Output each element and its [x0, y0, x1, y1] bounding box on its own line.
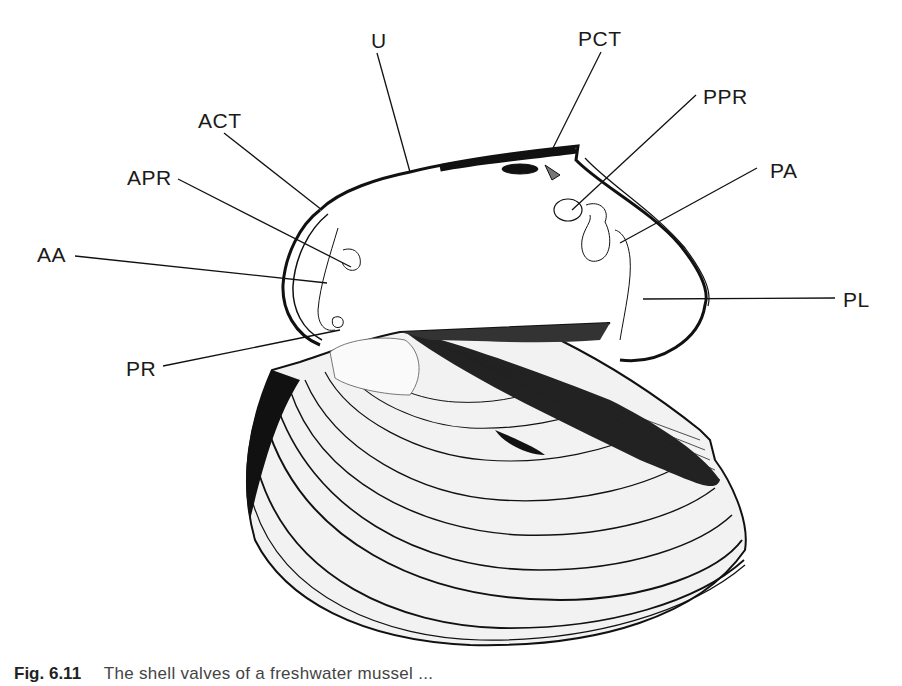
lower-valve-exterior	[246, 323, 746, 645]
label-posterior-adductor: PA	[770, 160, 797, 181]
label-anterior-cardinal-tooth: ACT	[198, 110, 242, 131]
figure-number: Fig. 6.11	[14, 664, 81, 683]
label-protractor: PR	[126, 358, 156, 379]
label-pallial-line: PL	[843, 289, 870, 310]
label-anterior-pedal-retractor: APR	[127, 167, 172, 188]
figure-caption: Fig. 6.11 The shell valves of a freshwat…	[14, 664, 902, 686]
label-umbo: U	[371, 30, 387, 51]
label-posterior-pedal-retractor: PPR	[703, 86, 748, 107]
caption-text: The shell valves of a freshwater mussel …	[104, 664, 433, 683]
label-posterior-cardinal-tooth: PCT	[578, 28, 622, 49]
label-anterior-adductor: AA	[37, 244, 66, 265]
